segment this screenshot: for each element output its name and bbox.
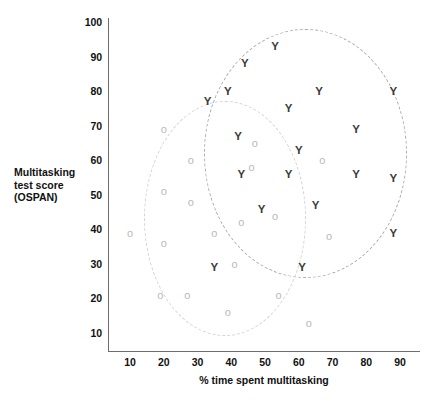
x-axis-line — [108, 351, 420, 352]
x-axis-tick-40: 40 — [219, 356, 243, 368]
x-axis-title: % time spent multitasking — [108, 374, 420, 386]
x-axis-tick-60: 60 — [287, 356, 311, 368]
y-axis-tick-10: 10 — [76, 327, 102, 339]
y-axis-tick-100: 100 — [76, 16, 102, 28]
y-axis-tick-20: 20 — [76, 292, 102, 304]
x-axis-tick-10: 10 — [118, 356, 142, 368]
y-axis-tick-50: 50 — [76, 189, 102, 201]
y-axis-title-line-1: Multitasking — [14, 166, 106, 179]
x-axis-tick-90: 90 — [388, 356, 412, 368]
data-point-o: o — [161, 124, 167, 135]
x-axis-tick-50: 50 — [253, 356, 277, 368]
y-axis-tick-90: 90 — [76, 51, 102, 63]
cropped-caption-sliver — [0, 398, 428, 404]
y-axis-tick-30: 30 — [76, 258, 102, 270]
scatter-plot-figure: Multitasking test score (OSPAN) % time s… — [0, 0, 428, 404]
cluster-ellipse-old — [144, 101, 306, 336]
y-axis-tick-40: 40 — [76, 223, 102, 235]
plot-area: YYYYYYYYYYYYYYYYYYYooooooooooooooooooo — [108, 18, 420, 352]
x-axis-tick-20: 20 — [152, 356, 176, 368]
x-axis-tick-30: 30 — [186, 356, 210, 368]
y-axis-tick-60: 60 — [76, 154, 102, 166]
y-axis-line — [108, 18, 109, 352]
y-axis-tick-80: 80 — [76, 85, 102, 97]
data-point-y: Y — [389, 227, 397, 238]
data-point-o: o — [127, 227, 133, 238]
data-point-o: o — [306, 317, 312, 328]
y-axis-tick-70: 70 — [76, 120, 102, 132]
x-axis-tick-80: 80 — [354, 356, 378, 368]
x-axis-tick-70: 70 — [321, 356, 345, 368]
